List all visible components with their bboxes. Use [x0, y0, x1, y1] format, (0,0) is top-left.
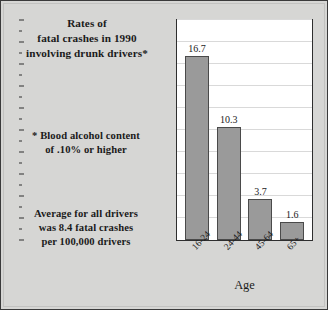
y-axis-minor-tick-mark [19, 185, 22, 186]
y-axis-minor-tick-mark [19, 75, 22, 76]
bar-value-label: 1.6 [286, 209, 299, 220]
chart-title: Rates of fatal crashes in 1990 involving… [7, 16, 167, 60]
bar-slot: 10.3 [217, 20, 241, 240]
footnote: * Blood alcohol content of .10% or highe… [5, 129, 167, 157]
x-axis-title: Age [176, 278, 313, 293]
footnote-line-1: * Blood alcohol content [5, 129, 167, 143]
y-axis-tick-mark [19, 174, 24, 175]
y-axis-tick-mark [19, 196, 24, 197]
y-axis-minor-tick-mark [19, 163, 22, 164]
bar[interactable] [185, 56, 209, 240]
bar-value-label: 10.3 [220, 114, 238, 125]
chart-title-line-2: fatal crashes in 1990 [7, 31, 167, 46]
y-axis-minor-tick-mark [19, 97, 22, 98]
average-note-line-1: Average for all drivers [5, 207, 167, 221]
bar-slot: 16.7 [185, 20, 209, 240]
y-axis-tick-mark [19, 64, 24, 65]
chart-figure: Rates of fatal crashes in 1990 involving… [0, 0, 328, 310]
chart-title-line-1: Rates of [7, 16, 167, 31]
y-axis-tick-mark [19, 108, 24, 109]
y-axis-tick-mark [19, 86, 24, 87]
average-note-line-3: per 100,000 drivers [5, 235, 167, 249]
bar-value-label: 3.7 [254, 186, 267, 197]
bar-value-label: 16.7 [188, 43, 206, 54]
average-note: Average for all drivers was 8.4 fatal cr… [5, 207, 167, 249]
bar[interactable] [217, 127, 241, 240]
chart-title-line-3: involving drunk drivers* [7, 46, 167, 61]
bar-slot: 3.7 [248, 20, 272, 240]
footnote-line-2: of .10% or higher [5, 143, 167, 157]
bar-slot: 1.6 [280, 20, 304, 240]
average-note-line-2: was 8.4 fatal crashes [5, 221, 167, 235]
plot-area: 16.710.33.71.6 [176, 19, 313, 241]
bar-series: 16.710.33.71.6 [177, 20, 312, 240]
x-axis-tick-labels: 16-2424-4445-6465+ [176, 243, 313, 277]
y-axis-minor-tick-mark [19, 119, 22, 120]
